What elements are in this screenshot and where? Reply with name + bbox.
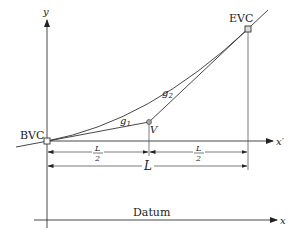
x-axis-label: x: [280, 215, 286, 226]
evc-label: EVC: [229, 12, 253, 25]
dim-half-left-den: 2: [94, 154, 100, 163]
dim-half-right-num: L: [195, 144, 201, 153]
x-prime-axis-label: x′: [276, 136, 285, 147]
v-label: V: [150, 124, 159, 135]
y-axis-label: y: [42, 6, 49, 17]
dim-total-label: L: [143, 159, 152, 173]
evc-point-marker: [245, 26, 251, 32]
g1-label: g1: [120, 115, 131, 128]
dim-half-left-num: L: [94, 144, 100, 153]
dim-half-right-den: 2: [195, 154, 201, 163]
bvc-label: BVC: [20, 129, 44, 142]
vertical-curve-diagram: y x′ x Datum L 2 L 2 L BVC EVC V g1 g2: [0, 0, 292, 235]
bvc-point-marker: [44, 138, 50, 144]
datum-label: Datum: [133, 206, 171, 219]
